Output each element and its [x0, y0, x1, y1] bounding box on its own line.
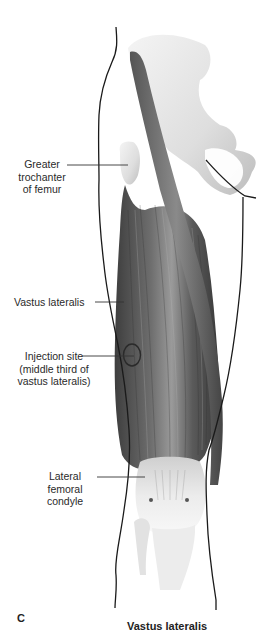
label-line: (middle third of [16, 363, 92, 376]
label-line: Vastus lateralis [14, 296, 94, 309]
label-line: Lateral femoral [30, 470, 100, 495]
label-lateral-femoral-condyle: Lateral femoral condyle [30, 470, 100, 508]
anatomy-figure: Greater trochanter of femur Vastus later… [0, 0, 269, 640]
panel-letter: C [17, 612, 25, 624]
label-line: condyle [30, 495, 100, 508]
label-vastus-lateralis: Vastus lateralis [14, 296, 94, 309]
label-line: trochanter [16, 171, 68, 184]
label-injection-site: Injection site (middle third of vastus l… [16, 350, 92, 388]
label-greater-trochanter: Greater trochanter of femur [16, 158, 68, 196]
greater-trochanter-bone [120, 141, 140, 184]
figure-caption: Vastus lateralis [127, 620, 207, 632]
label-line: Injection site [16, 350, 92, 363]
label-line: of femur [16, 183, 68, 196]
thigh-illustration [0, 0, 269, 640]
label-line: Greater [16, 158, 68, 171]
label-line: vastus lateralis) [16, 375, 92, 388]
